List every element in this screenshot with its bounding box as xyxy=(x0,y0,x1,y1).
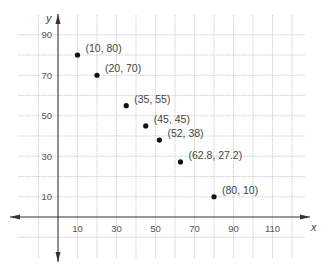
data-point xyxy=(124,103,129,108)
data-point-label: (35, 55) xyxy=(134,93,170,105)
y-tick-label: 10 xyxy=(41,191,52,202)
x-tick-label: 90 xyxy=(228,223,239,234)
data-point xyxy=(94,73,99,78)
x-axis-arrow-right-icon xyxy=(300,215,310,220)
data-point xyxy=(157,137,162,142)
data-point-label: (52, 38) xyxy=(167,127,203,139)
data-point xyxy=(211,194,216,199)
x-tick-label: 70 xyxy=(189,223,200,234)
data-point-label: (20, 70) xyxy=(105,62,141,74)
data-point xyxy=(143,123,148,128)
x-axis-label: x xyxy=(310,221,317,233)
scatter-chart: xy10305070901101030507090 (10, 80)(20, 7… xyxy=(0,0,329,273)
data-points: (10, 80)(20, 70)(35, 55)(45, 45)(52, 38)… xyxy=(75,42,258,199)
y-tick-label: 50 xyxy=(41,110,52,121)
y-tick-label: 30 xyxy=(41,151,52,162)
data-point-label: (62.8, 27.2) xyxy=(188,149,242,161)
y-axis-arrow-up-icon xyxy=(56,14,61,24)
data-point-label: (45, 45) xyxy=(154,113,190,125)
grid-lines xyxy=(18,15,305,258)
x-tick-label: 110 xyxy=(265,223,280,234)
data-point xyxy=(178,159,183,164)
x-tick-label: 10 xyxy=(72,223,83,234)
x-tick-label: 50 xyxy=(150,223,161,234)
y-axis-arrow-down-icon xyxy=(56,252,61,262)
data-point-label: (80, 10) xyxy=(222,184,258,196)
y-tick-label: 70 xyxy=(41,70,52,81)
y-axis-label: y xyxy=(45,12,53,24)
data-point-label: (10, 80) xyxy=(86,42,122,54)
x-axis-arrow-left-icon xyxy=(10,215,20,220)
x-tick-label: 30 xyxy=(111,223,122,234)
y-tick-label: 90 xyxy=(41,29,52,40)
data-point xyxy=(75,52,80,57)
